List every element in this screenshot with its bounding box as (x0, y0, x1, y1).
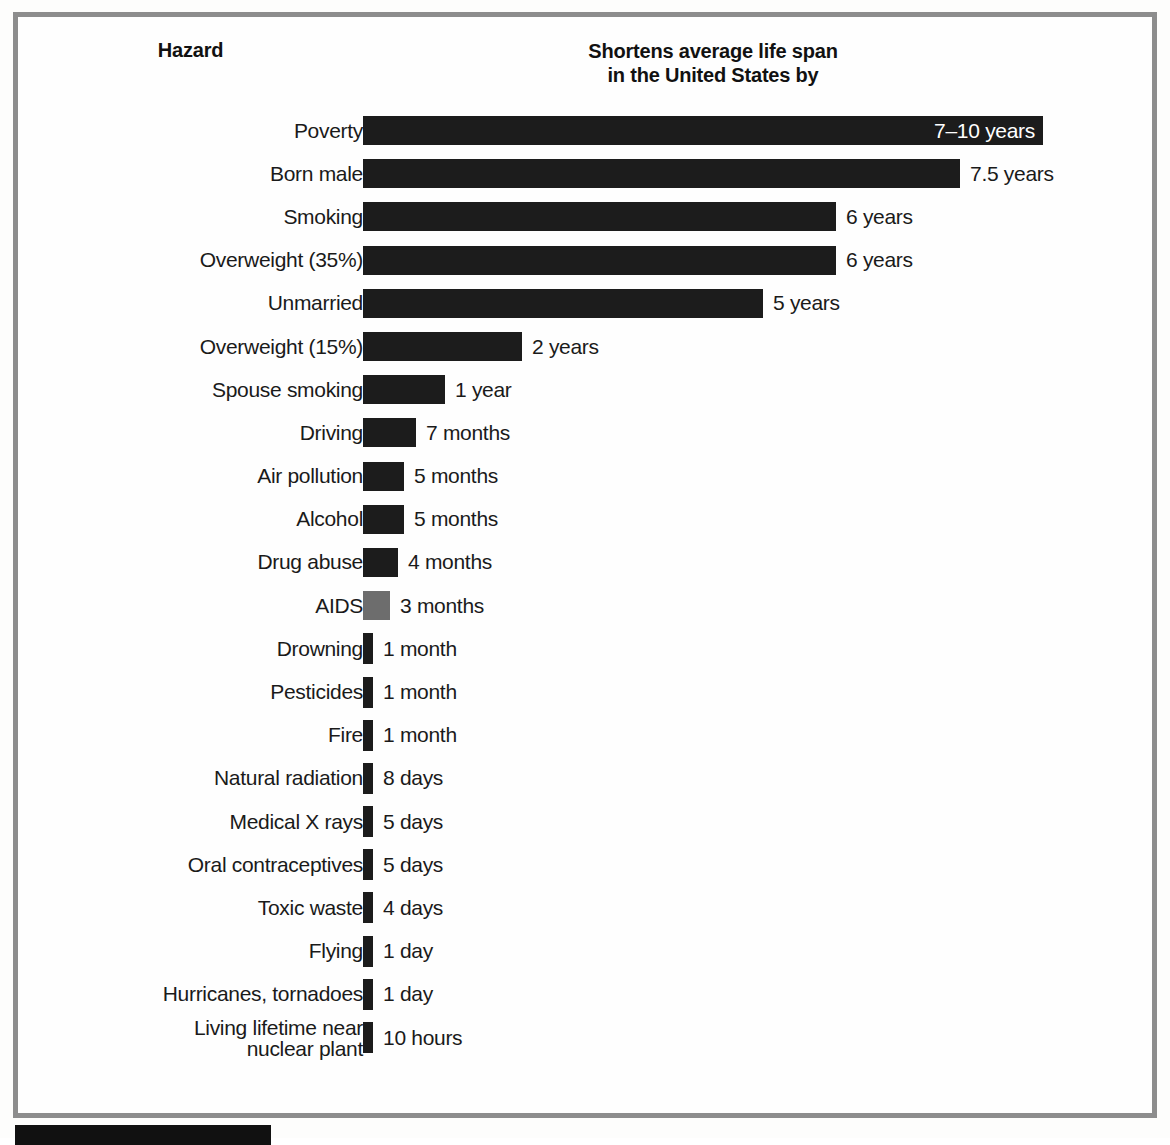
bar-holder (363, 677, 373, 708)
row-bar-wrap: 5 days (363, 800, 443, 843)
chart-row: Spouse smoking1 year (18, 368, 1152, 411)
row-label: Born male (270, 152, 363, 195)
value-label: 5 days (383, 853, 443, 877)
chart-header: Hazard Shortens average life span in the… (18, 39, 1152, 97)
row-bar-wrap: 6 years (363, 195, 913, 238)
row-bar-wrap: 1 day (363, 930, 433, 973)
row-bar-wrap: 5 days (363, 843, 443, 886)
row-label: Smoking (283, 195, 363, 238)
bar-holder (363, 289, 763, 318)
value-label: 7.5 years (970, 162, 1054, 186)
value-bar (363, 505, 404, 534)
row-label: Air pollution (257, 455, 363, 498)
row-label: Living lifetime near nuclear plant (194, 1016, 363, 1059)
bar-holder (363, 763, 373, 794)
chart-row: Living lifetime near nuclear plant10 hou… (18, 1016, 1152, 1059)
chart-row: Unmarried5 years (18, 282, 1152, 325)
row-bar-wrap: 4 days (363, 886, 443, 929)
chart-row: Alcohol5 months (18, 498, 1152, 541)
bar-holder (363, 806, 373, 837)
row-label: Spouse smoking (212, 368, 363, 411)
value-label: 8 days (383, 766, 443, 790)
value-bar (363, 849, 373, 880)
value-label: 7 months (426, 421, 510, 445)
row-label: Drowning (277, 627, 363, 670)
chart-row: Drug abuse4 months (18, 541, 1152, 584)
chart-rows: Poverty7–10 yearsBorn male7.5 yearsSmoki… (18, 109, 1152, 1109)
chart-row: Drowning1 month (18, 627, 1152, 670)
chart-row: Flying1 day (18, 930, 1152, 973)
row-bar-wrap: 7–10 years (363, 109, 1043, 152)
row-label: Hurricanes, tornadoes (163, 973, 363, 1016)
bar-holder (363, 418, 416, 447)
value-label: 6 years (846, 248, 913, 272)
row-bar-wrap: 5 years (363, 282, 840, 325)
row-bar-wrap: 5 months (363, 498, 498, 541)
value-label: 1 day (383, 939, 433, 963)
chart-row: Toxic waste4 days (18, 886, 1152, 929)
row-bar-wrap: 3 months (363, 584, 484, 627)
row-label: Pesticides (270, 670, 363, 713)
bar-holder (363, 505, 404, 534)
value-bar (363, 375, 445, 404)
value-label: 4 months (408, 550, 492, 574)
value-bar (363, 677, 373, 708)
value-bar (363, 159, 960, 188)
value-label: 5 years (773, 291, 840, 315)
value-bar (363, 1022, 373, 1053)
row-bar-wrap: 1 month (363, 714, 457, 757)
value-label: 1 month (383, 637, 457, 661)
value-label: 10 hours (383, 1026, 462, 1050)
row-label: Oral contraceptives (188, 843, 363, 886)
bar-holder (363, 1022, 373, 1053)
value-label: 5 months (414, 464, 498, 488)
chart-row: Poverty7–10 years (18, 109, 1152, 152)
value-bar (363, 246, 836, 275)
value-bar (363, 202, 836, 231)
value-bar (363, 548, 398, 577)
bar-holder (363, 548, 398, 577)
value-column-header: Shortens average life span in the United… (373, 39, 1053, 87)
row-bar-wrap: 4 months (363, 541, 492, 584)
value-bar (363, 936, 373, 967)
chart-row: Medical X rays5 days (18, 800, 1152, 843)
value-label: 1 month (383, 680, 457, 704)
chart-row: Natural radiation8 days (18, 757, 1152, 800)
row-label: AIDS (315, 584, 363, 627)
value-bar (363, 720, 373, 751)
hazard-column-header: Hazard (18, 39, 363, 62)
value-label: 1 month (383, 723, 457, 747)
bar-holder (363, 159, 960, 188)
row-bar-wrap: 1 year (363, 368, 512, 411)
row-bar-wrap: 6 years (363, 239, 913, 282)
row-bar-wrap: 2 years (363, 325, 599, 368)
row-bar-wrap: 1 month (363, 627, 457, 670)
chart-row: Overweight (35%)6 years (18, 239, 1152, 282)
value-bar (363, 806, 373, 837)
row-label: Overweight (15%) (200, 325, 363, 368)
bar-holder: 7–10 years (363, 116, 1043, 145)
value-bar (363, 633, 373, 664)
chart-row: Pesticides1 month (18, 670, 1152, 713)
bar-holder (363, 202, 836, 231)
value-bar (363, 462, 404, 491)
value-bar (363, 289, 763, 318)
chart-row: Hurricanes, tornadoes1 day (18, 973, 1152, 1016)
value-label: 1 day (383, 982, 433, 1006)
bar-holder (363, 720, 373, 751)
value-label: 7–10 years (934, 119, 1035, 143)
bar-holder (363, 936, 373, 967)
bar-holder (363, 332, 522, 361)
row-bar-wrap: 7.5 years (363, 152, 1054, 195)
bar-holder (363, 375, 445, 404)
row-bar-wrap: 7 months (363, 411, 510, 454)
row-label: Medical X rays (229, 800, 363, 843)
row-label: Unmarried (268, 282, 363, 325)
chart-row: Overweight (15%)2 years (18, 325, 1152, 368)
row-label: Fire (328, 714, 363, 757)
row-bar-wrap: 5 months (363, 455, 498, 498)
value-column-header-line1: Shortens average life span (373, 39, 1053, 63)
bar-holder (363, 246, 836, 275)
row-label: Poverty (294, 109, 363, 152)
value-label: 5 months (414, 507, 498, 531)
